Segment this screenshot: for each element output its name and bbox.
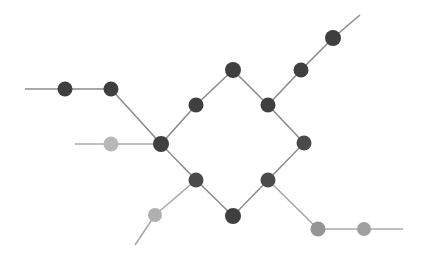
graph-node[interactable]: [189, 98, 204, 113]
graph-node[interactable]: [104, 82, 119, 97]
graph-diagram: [0, 0, 428, 263]
graph-node[interactable]: [311, 222, 326, 237]
graph-node[interactable]: [225, 62, 241, 78]
graph-node[interactable]: [189, 173, 204, 188]
graph-node[interactable]: [325, 30, 341, 46]
graph-node[interactable]: [261, 173, 276, 188]
graph-node[interactable]: [58, 82, 73, 97]
graph-node[interactable]: [294, 63, 309, 78]
graph-node[interactable]: [153, 136, 169, 152]
graph-node[interactable]: [357, 222, 371, 236]
graph-node[interactable]: [148, 208, 162, 222]
graph-node[interactable]: [104, 137, 119, 152]
graph-node[interactable]: [225, 208, 241, 224]
graph-node[interactable]: [297, 136, 312, 151]
graph-node[interactable]: [261, 98, 276, 113]
